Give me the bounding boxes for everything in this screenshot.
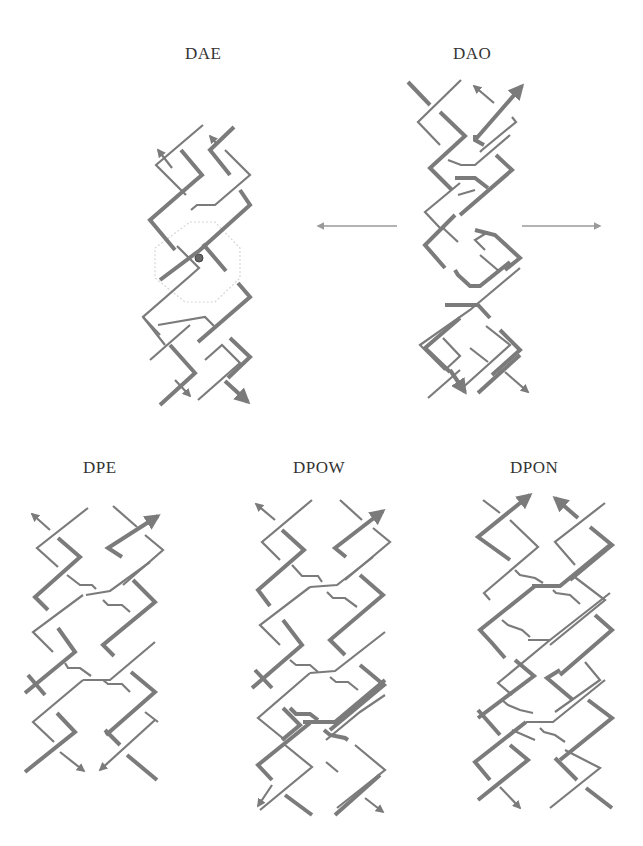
diagram-dae [143,125,250,405]
diagram-dpon [475,495,612,808]
diagram-dpe [25,506,163,780]
diagram-dpow [252,500,390,815]
tile-diagrams [0,0,643,846]
diagram-dao [318,80,600,398]
